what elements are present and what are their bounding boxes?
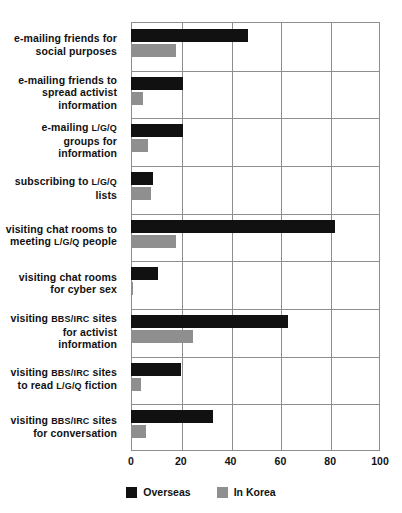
- bar-in-korea: [131, 425, 146, 438]
- category-label: subscribing to L/G/Qlists: [0, 175, 117, 201]
- x-tick-label: 60: [275, 455, 287, 467]
- bar-in-korea: [131, 378, 141, 391]
- category-label: e-mailing friends forsocial purposes: [0, 32, 117, 57]
- bar-group: [131, 213, 380, 261]
- category-label: visiting chat rooms tomeeting L/G/Q peop…: [0, 223, 117, 249]
- x-axis-tick-labels: 020406080100: [0, 455, 402, 475]
- bar-overseas: [131, 77, 183, 90]
- bar-group: [131, 165, 380, 213]
- bar-in-korea: [131, 330, 193, 343]
- x-tick-label: 80: [324, 455, 336, 467]
- legend-item[interactable]: Overseas: [126, 486, 190, 498]
- bar-group: [131, 22, 380, 70]
- bar-overseas: [131, 315, 288, 328]
- category-axis-labels: e-mailing friends forsocial purposese-ma…: [0, 22, 124, 451]
- bar-overseas: [131, 363, 181, 376]
- category-label: visiting BBS/IRC sitesfor activistinform…: [0, 312, 117, 351]
- x-tick-label: 100: [371, 455, 389, 467]
- bar-in-korea: [131, 139, 148, 152]
- bar-group: [131, 403, 380, 451]
- legend-swatch-icon: [217, 487, 228, 498]
- bar-group: [131, 260, 380, 308]
- bar-overseas: [131, 124, 183, 137]
- legend-label: In Korea: [234, 486, 276, 498]
- bar-overseas: [131, 410, 213, 423]
- bar-group: [131, 117, 380, 165]
- bar-overseas: [131, 29, 248, 42]
- category-label: e-mailing L/G/Qgroups forinformation: [0, 121, 117, 160]
- bar-in-korea: [131, 92, 143, 105]
- x-tick-label: 20: [175, 455, 187, 467]
- category-label: visiting BBS/IRC sitesto read L/G/Q fict…: [0, 366, 117, 393]
- bar-chart: e-mailing friends forsocial purposese-ma…: [0, 0, 402, 513]
- bar-group: [131, 70, 380, 118]
- bar-in-korea: [131, 282, 133, 295]
- bar-overseas: [131, 172, 153, 185]
- bar-in-korea: [131, 235, 176, 248]
- bar-group: [131, 356, 380, 404]
- bar-overseas: [131, 267, 158, 280]
- legend-item[interactable]: In Korea: [217, 486, 276, 498]
- bar-in-korea: [131, 187, 151, 200]
- legend-label: Overseas: [143, 486, 190, 498]
- category-label: visiting chat roomsfor cyber sex: [0, 271, 117, 296]
- category-label: e-mailing friends tospread activistinfor…: [0, 74, 117, 112]
- category-label: visiting BBS/IRC sitesfor conversation: [0, 414, 117, 440]
- chart-legend: OverseasIn Korea: [0, 482, 402, 502]
- x-tick-label: 40: [225, 455, 237, 467]
- bar-overseas: [131, 220, 335, 233]
- x-tick-label: 0: [128, 455, 134, 467]
- bar-rows: [131, 22, 380, 451]
- bar-group: [131, 308, 380, 356]
- bar-in-korea: [131, 44, 176, 57]
- legend-swatch-icon: [126, 487, 137, 498]
